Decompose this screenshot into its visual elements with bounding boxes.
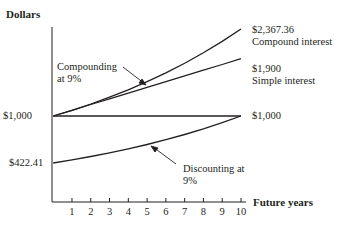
- x-tick-label: 9: [215, 206, 229, 217]
- discounting-arrowhead: [151, 146, 158, 152]
- x-tick-label: 4: [121, 206, 135, 217]
- compounding-label-line1: Compounding: [57, 61, 117, 73]
- x-tick-label: 8: [196, 206, 210, 217]
- compound-end-value: $2,367.36: [252, 24, 294, 36]
- x-tick-label: 1: [65, 206, 79, 217]
- x-tick-label: 3: [103, 206, 117, 217]
- compound-end-caption: Compound interest: [252, 36, 332, 48]
- x-tick-label: 5: [140, 206, 154, 217]
- y-label-422: $422.41: [9, 157, 43, 169]
- x-tick-label: 10: [234, 206, 248, 217]
- compounding-label-line2: at 9%: [57, 73, 81, 85]
- x-tick-label: 2: [84, 206, 98, 217]
- discounting-label-line1: Discounting at: [183, 163, 245, 175]
- flat-end-value: $1,000: [252, 110, 281, 122]
- y-axis-title: Dollars: [6, 8, 40, 20]
- simple-end-value: $1,900: [252, 63, 281, 75]
- x-axis-title: Future years: [253, 196, 313, 208]
- simple-end-caption: Simple interest: [252, 75, 315, 87]
- discounting-line: [53, 116, 241, 163]
- discounting-label-line2: 9%: [183, 175, 197, 187]
- x-tick-label: 6: [159, 206, 173, 217]
- y-label-1000: $1,000: [3, 110, 32, 122]
- x-tick-label: 7: [178, 206, 192, 217]
